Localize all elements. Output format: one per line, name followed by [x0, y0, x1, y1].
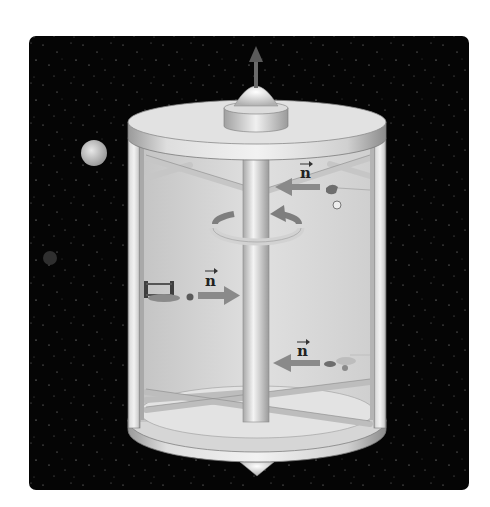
right-wall [374, 138, 386, 428]
central-axle [243, 140, 269, 422]
moon-icon [81, 140, 107, 166]
space-station-figure: n n n [0, 0, 490, 507]
left-wall [128, 138, 140, 428]
vector-label-n-left: n [205, 272, 216, 290]
distant-planet-icon [43, 251, 57, 265]
